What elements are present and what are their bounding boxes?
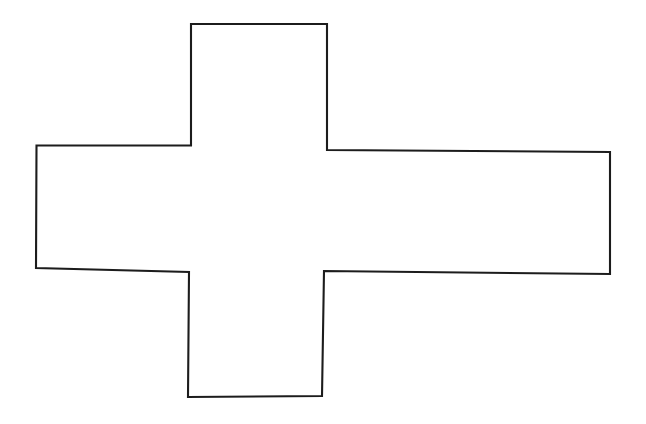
cross-polygon — [36, 24, 610, 397]
cross-figure — [0, 0, 646, 424]
drawing-canvas — [0, 0, 646, 424]
